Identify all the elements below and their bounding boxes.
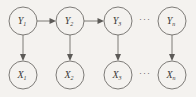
node-y2[interactable]: Y2: [56, 7, 84, 35]
node-subscript-xn: n: [173, 75, 176, 81]
arrowhead-y2-y3: [98, 18, 105, 24]
node-subscript-y1: 1: [23, 21, 26, 27]
arrowhead-yn-xn: [169, 54, 175, 61]
node-x2[interactable]: X2: [56, 61, 84, 89]
ellipsis-bottom: ···: [139, 68, 151, 78]
node-subscript-x3: 3: [118, 75, 122, 81]
node-subscript-y2: 2: [70, 21, 73, 27]
node-subscript-y3: 3: [117, 21, 121, 27]
hmm-diagram: Y1 Y2 Y3 Yn X1: [0, 0, 196, 97]
vertical-edge-yn-xn: [169, 35, 175, 61]
node-xn[interactable]: Xn: [158, 61, 186, 89]
node-subscript-x1: 1: [24, 75, 27, 81]
ellipsis-top: ···: [139, 14, 151, 24]
arrowhead-y3-x3: [115, 54, 121, 61]
horizontal-edge-y1-y2: [37, 18, 56, 24]
node-yn[interactable]: Yn: [158, 7, 186, 35]
vertical-edge-y3-x3: [115, 35, 121, 61]
arrowhead-y1-y2: [50, 18, 57, 24]
vertical-edge-y1-x1: [20, 35, 26, 61]
node-y3[interactable]: Y3: [104, 7, 132, 35]
hmm-graph-canvas: Y1 Y2 Y3 Yn X1: [0, 0, 196, 97]
node-y1[interactable]: Y1: [9, 7, 37, 35]
node-subscript-yn: n: [172, 21, 175, 27]
node-x1[interactable]: X1: [9, 61, 37, 89]
arrowhead-y2-x2: [67, 54, 73, 61]
vertical-edge-y2-x2: [67, 35, 73, 61]
node-x3[interactable]: X3: [104, 61, 132, 89]
node-subscript-x2: 2: [71, 75, 74, 81]
arrowhead-y1-x1: [20, 54, 26, 61]
horizontal-edge-y2-y3: [84, 18, 104, 24]
